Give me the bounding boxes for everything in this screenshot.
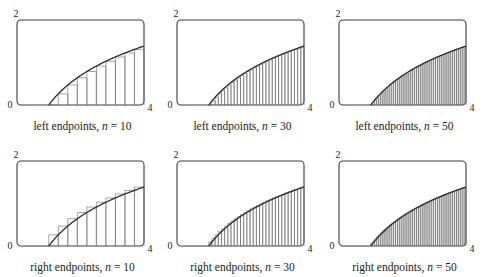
origin-label: 0 — [330, 240, 335, 251]
x-max-label: 4 — [470, 102, 475, 113]
riemann-rectangle — [96, 202, 106, 246]
y-max-label: 2 — [14, 149, 19, 160]
riemann-rectangle — [68, 85, 78, 105]
riemann-rectangles — [49, 187, 144, 246]
riemann-rectangle — [272, 198, 275, 246]
x-max-label: 4 — [470, 243, 475, 254]
riemann-rectangle — [263, 202, 266, 246]
riemann-sum-figure: 204left endpoints, n = 10 204left endpoi… — [0, 0, 483, 277]
riemann-rectangle — [134, 49, 144, 105]
panel-caption: right endpoints, n = 10 — [30, 261, 135, 274]
panel-caption: left endpoints, n = 30 — [193, 120, 291, 133]
y-max-label: 2 — [336, 8, 341, 19]
riemann-rectangle — [282, 54, 285, 105]
riemann-rectangle — [106, 61, 116, 105]
riemann-rectangle — [279, 195, 282, 246]
x-max-label: 4 — [148, 243, 153, 254]
riemann-rectangle — [250, 209, 253, 246]
panel-caption: left endpoints, n = 10 — [33, 120, 131, 133]
riemann-rectangle — [294, 189, 297, 246]
riemann-rectangle — [234, 80, 237, 105]
y-max-label: 2 — [174, 149, 179, 160]
riemann-rectangle — [115, 57, 125, 105]
riemann-rectangle — [58, 94, 68, 105]
riemann-rectangle — [237, 78, 240, 105]
riemann-rectangles — [371, 187, 466, 246]
panel-caption: left endpoints, n = 50 — [355, 120, 453, 133]
riemann-rectangle — [260, 204, 263, 246]
riemann-rectangle — [96, 66, 106, 105]
y-max-label: 2 — [336, 149, 341, 160]
riemann-rectangle — [241, 214, 244, 246]
riemann-rectangle — [269, 199, 272, 246]
riemann-rectangle — [225, 88, 228, 105]
riemann-rectangle — [125, 190, 135, 246]
riemann-rectangle — [58, 226, 68, 246]
riemann-rectangle — [279, 56, 282, 105]
riemann-rectangle — [256, 66, 259, 105]
riemann-rectangle — [288, 192, 291, 246]
origin-label: 0 — [8, 99, 13, 110]
riemann-rectangle — [253, 68, 256, 105]
riemann-rectangle — [266, 61, 269, 105]
riemann-rectangle — [253, 207, 256, 246]
riemann-rectangle — [228, 223, 231, 246]
origin-label: 0 — [330, 99, 335, 110]
x-max-label: 4 — [308, 243, 313, 254]
origin-label: 0 — [168, 99, 173, 110]
riemann-rectangle — [241, 76, 244, 105]
riemann-rectangle — [294, 49, 297, 105]
riemann-rectangle — [291, 190, 294, 246]
riemann-rectangles — [371, 47, 466, 105]
riemann-rectangle — [87, 207, 97, 246]
riemann-rectangle — [269, 60, 272, 105]
riemann-rectangle — [275, 197, 278, 246]
riemann-rectangle — [464, 47, 466, 105]
riemann-rectangle — [218, 94, 221, 105]
panel-left-endpoints-n50: 204left endpoints, n = 50 — [330, 8, 475, 133]
panel-left-endpoints-n30: 204left endpoints, n = 30 — [168, 8, 313, 133]
riemann-rectangle — [247, 71, 250, 105]
panel-caption: right endpoints, n = 30 — [190, 261, 295, 274]
riemann-rectangle — [247, 211, 250, 246]
riemann-rectangle — [250, 70, 253, 105]
riemann-rectangle — [260, 64, 263, 105]
riemann-rectangle — [237, 217, 240, 246]
riemann-rectangle — [288, 52, 291, 105]
riemann-rectangle — [228, 85, 231, 105]
riemann-rectangles — [49, 49, 144, 105]
riemann-rectangle — [298, 188, 301, 246]
riemann-rectangle — [256, 205, 259, 246]
riemann-rectangle — [106, 198, 116, 246]
origin-label: 0 — [8, 240, 13, 251]
riemann-rectangle — [263, 63, 266, 105]
riemann-rectangle — [275, 57, 278, 105]
panel-right-endpoints-n50: 204right endpoints, n = 50 — [330, 149, 475, 274]
panel-right-endpoints-n30: 204right endpoints, n = 30 — [168, 149, 313, 274]
riemann-rectangle — [285, 193, 288, 246]
riemann-rectangles — [209, 47, 304, 105]
riemann-rectangles — [209, 187, 304, 246]
riemann-rectangle — [244, 212, 247, 246]
riemann-rectangle — [282, 194, 285, 246]
riemann-rectangle — [125, 53, 135, 105]
riemann-rectangle — [298, 48, 301, 105]
y-max-label: 2 — [14, 8, 19, 19]
riemann-rectangle — [221, 91, 224, 105]
riemann-rectangle — [272, 58, 275, 105]
riemann-rectangle — [231, 82, 234, 105]
riemann-rectangle — [77, 78, 87, 105]
riemann-rectangle — [215, 97, 218, 105]
riemann-rectangle — [285, 53, 288, 105]
origin-label: 0 — [168, 240, 173, 251]
riemann-rectangle — [464, 187, 466, 246]
riemann-rectangle — [87, 71, 97, 105]
panel-left-endpoints-n10: 204left endpoints, n = 10 — [8, 8, 153, 133]
panel-caption: right endpoints, n = 50 — [352, 261, 457, 274]
riemann-rectangle — [234, 219, 237, 246]
riemann-rectangle — [291, 51, 294, 105]
riemann-rectangle — [115, 194, 125, 246]
riemann-rectangle — [244, 73, 247, 105]
x-max-label: 4 — [308, 102, 313, 113]
y-max-label: 2 — [174, 8, 179, 19]
